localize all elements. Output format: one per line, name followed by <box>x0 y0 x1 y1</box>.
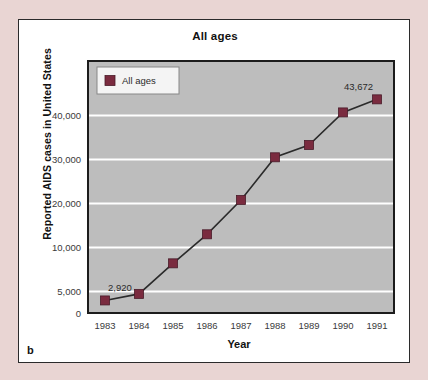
svg-text:30,000: 30,000 <box>52 154 81 165</box>
line-chart: 05,00010,00020,00030,00040,000 198319841… <box>19 20 411 364</box>
svg-text:2,920: 2,920 <box>108 282 132 293</box>
svg-text:20,000: 20,000 <box>52 198 81 209</box>
x-axis-tick-labels: 198319841985198619871988198919901991 <box>94 320 387 331</box>
svg-text:1991: 1991 <box>366 320 387 331</box>
svg-text:40,000: 40,000 <box>52 110 81 121</box>
svg-text:1988: 1988 <box>264 320 285 331</box>
svg-text:1983: 1983 <box>94 320 115 331</box>
svg-text:43,672: 43,672 <box>344 81 373 92</box>
svg-text:1990: 1990 <box>332 320 353 331</box>
svg-text:0: 0 <box>76 308 81 319</box>
y-axis-tick-labels: 05,00010,00020,00030,00040,000 <box>52 110 81 319</box>
svg-text:10,000: 10,000 <box>52 242 81 253</box>
svg-text:1987: 1987 <box>230 320 251 331</box>
svg-text:All ages: All ages <box>122 75 156 86</box>
figure-card: All ages Reported AIDS cases in United S… <box>18 19 410 363</box>
svg-text:5,000: 5,000 <box>57 286 81 297</box>
svg-text:1984: 1984 <box>128 320 149 331</box>
svg-text:1985: 1985 <box>162 320 183 331</box>
chart-legend: All ages <box>97 67 179 94</box>
figure-page: All ages Reported AIDS cases in United S… <box>0 0 428 380</box>
svg-text:1989: 1989 <box>298 320 319 331</box>
svg-text:1986: 1986 <box>196 320 217 331</box>
plot-background <box>88 61 394 313</box>
panel-label: b <box>27 344 34 356</box>
